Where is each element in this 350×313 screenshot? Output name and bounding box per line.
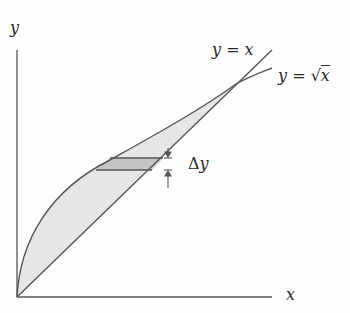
curve-y-equals-x [17,50,272,297]
delta-y-label: Δy [188,154,209,173]
delta-symbol: Δ [188,154,200,173]
diagram-canvas: y x y = x y = √x Δy [0,0,350,313]
sqrt-radicand: x [321,65,330,85]
curve-label-y-equals-sqrt-x: y = √x [278,66,330,85]
curve-y-equals-sqrt-x [17,68,272,297]
curve-label-y-equals-x: y = x [212,40,254,59]
sqrt-label-prefix: y = [278,66,311,85]
y-axis-label: y [10,18,19,37]
diagram-graphics [0,0,350,313]
sqrt-symbol: √ [311,66,321,85]
delta-var: y [200,154,209,173]
x-axis-label: x [286,285,295,304]
strip-delta-y [96,158,163,170]
